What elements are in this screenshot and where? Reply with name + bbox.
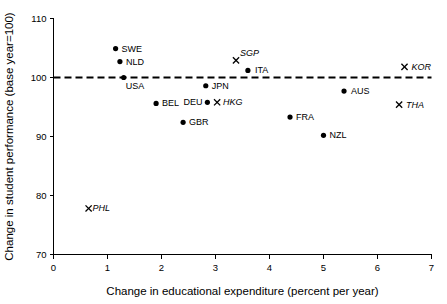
marker-dot-nld xyxy=(117,59,122,64)
data-point-bel: BEL xyxy=(154,98,180,108)
data-point-phl: PHL xyxy=(86,203,111,213)
data-point-sgp: SGP xyxy=(233,48,259,63)
point-label-nzl: NZL xyxy=(330,130,347,140)
y-tick-label-70: 70 xyxy=(36,249,47,260)
marker-dot-usa xyxy=(121,75,126,80)
x-tick-label-2: 2 xyxy=(159,262,164,273)
point-label-kor: KOR xyxy=(412,62,432,72)
point-label-phl: PHL xyxy=(93,203,111,213)
point-label-hkg: HKG xyxy=(223,97,243,107)
marker-dot-bel xyxy=(154,101,159,106)
x-axis-title: Change in educational expenditure (perce… xyxy=(106,285,379,297)
y-tick-label-110: 110 xyxy=(31,13,46,24)
point-label-ita: ITA xyxy=(255,65,268,75)
data-point-fra: FRA xyxy=(287,112,314,122)
data-point-nld: NLD xyxy=(117,57,144,67)
data-point-aus: AUS xyxy=(341,86,369,96)
y-tick-label-100: 100 xyxy=(31,72,47,83)
point-label-aus: AUS xyxy=(351,86,370,96)
data-point-gbr: GBR xyxy=(181,117,210,127)
data-point-hkg: HKG xyxy=(214,97,243,107)
marker-dot-nzl xyxy=(321,133,326,138)
x-tick-label-7: 7 xyxy=(429,262,434,273)
marker-dot-ita xyxy=(245,68,250,73)
x-tick-label-0: 0 xyxy=(51,262,56,273)
point-label-deu: DEU xyxy=(183,97,202,107)
y-tick-label-80: 80 xyxy=(36,190,47,201)
point-label-nld: NLD xyxy=(126,57,145,67)
point-label-gbr: GBR xyxy=(189,117,209,127)
tick-labels: 70809010011001234567 xyxy=(31,13,435,273)
data-point-nzl: NZL xyxy=(321,130,347,140)
data-point-ita: ITA xyxy=(245,65,268,75)
data-point-jpn: JPN xyxy=(203,81,229,91)
marker-dot-deu xyxy=(205,100,210,105)
x-tick-label-4: 4 xyxy=(267,262,272,273)
data-point-kor: KOR xyxy=(401,62,431,72)
point-label-sgp: SGP xyxy=(240,48,259,58)
chart-figure: 70809010011001234567 SWENLDUSABELGBRDEUH… xyxy=(0,0,447,304)
point-label-jpn: JPN xyxy=(212,81,229,91)
marker-dot-gbr xyxy=(181,120,186,125)
point-label-bel: BEL xyxy=(162,98,179,108)
x-tick-label-3: 3 xyxy=(213,262,218,273)
point-label-fra: FRA xyxy=(296,112,314,122)
x-tick-label-5: 5 xyxy=(321,262,326,273)
data-points: SWENLDUSABELGBRDEUHKGJPNSGPITAFRANZLAUSK… xyxy=(86,44,432,214)
scatter-plot: 70809010011001234567 SWENLDUSABELGBRDEUH… xyxy=(0,0,447,304)
point-label-swe: SWE xyxy=(122,44,143,54)
data-point-swe: SWE xyxy=(113,44,142,54)
x-tick-label-6: 6 xyxy=(375,262,380,273)
data-point-deu: DEU xyxy=(183,97,210,107)
x-tick-label-1: 1 xyxy=(105,262,110,273)
y-tick-label-90: 90 xyxy=(36,131,47,142)
marker-dot-jpn xyxy=(203,83,208,88)
marker-dot-aus xyxy=(341,88,346,93)
marker-dot-swe xyxy=(113,46,118,51)
y-axis-title: Change in student performance (base year… xyxy=(3,12,15,261)
data-point-tha: THA xyxy=(396,100,424,110)
point-label-usa: USA xyxy=(126,81,145,91)
point-label-tha: THA xyxy=(406,100,424,110)
marker-dot-fra xyxy=(287,114,292,119)
